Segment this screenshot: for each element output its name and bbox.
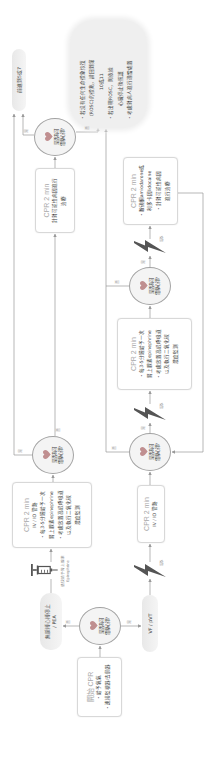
rosc-note-line: 心臟停止後照護	[116, 26, 125, 120]
shock-label: 電擊	[160, 236, 164, 242]
cpr-box-line: 針對可逆性病因進行	[51, 178, 60, 223]
rosc-note-line: ・考慮對病人進行適當處置	[125, 26, 134, 120]
rosc-note: ・若沒有任何生命徵象恢復 (ROSC)的徵兆，請回到第 10或11 ・若出現RO…	[70, 20, 147, 128]
branch-label-yes: 是	[142, 426, 146, 430]
start-title: 開始 CPR	[86, 672, 95, 703]
cpr-box-line: 治療	[60, 196, 69, 206]
cpr-box-line: ・每3-5分鐘給予一次	[39, 491, 48, 539]
cpr-box-line: 濃度監測	[74, 505, 83, 525]
heart-icon	[45, 133, 53, 142]
cpr-box-line: 利多卡因lidocaine	[146, 171, 155, 212]
shock-label: 電擊	[160, 560, 164, 566]
rosc-note-line: 10或11	[97, 26, 106, 120]
rhythm-vf-label: VF / pVT	[147, 614, 154, 634]
branch-label-no: 否	[116, 280, 120, 284]
start-item: ・給予氧氣	[95, 675, 104, 700]
branch-label-yes: 是	[25, 129, 29, 133]
decision-text: 電擊心律?	[105, 617, 111, 635]
cpr-box-amiodarone: CPR 2 min ・胺碘酮amiodarone或 利多卡因lidocaine …	[123, 157, 178, 225]
cpr-box-line: 以及執行二氧化碳	[163, 334, 172, 374]
cpr-box-line: ・考慮放置高級呼吸道	[57, 490, 66, 540]
cpr-box-title: CPR 2 min	[22, 498, 31, 532]
heart-icon	[90, 622, 98, 631]
start-cpr-box: 開始 CPR ・給予氧氣 ・連接監視器/去顫器	[77, 657, 122, 717]
cpr-box-title: CPR 2 min	[142, 497, 151, 531]
connector-asystole-check-yes	[14, 114, 32, 455]
rosc-note-line: ・若沒有任何生命徵象恢復	[78, 26, 87, 120]
branch-label-yes: 是	[128, 620, 132, 624]
rhythm-asystole-label: 無脈搏心搏停止	[44, 604, 51, 639]
goto-step-node: 前進到5或7	[12, 49, 26, 111]
goto-step-label: 前進到5或7	[16, 67, 23, 93]
cpr-box-line: ・胺碘酮amiodarone或	[138, 165, 147, 217]
branch-label-no: 否	[67, 620, 71, 624]
cpr-box-title: CPR 2 min	[129, 174, 138, 208]
cpr-box-title: CPR 2 min	[42, 184, 51, 218]
cpr-box-line: 以及執行二氧化碳	[65, 495, 74, 535]
epinephrine-note: 儘快給予腎上腺素 Epinephrine	[61, 549, 71, 593]
cpr-box-reversible-causes: CPR 2 min 針對可逆性病因進行 治療	[35, 168, 75, 233]
epinephrine-note-drug: Epinephrine	[66, 549, 71, 593]
syringe-icon	[31, 563, 58, 577]
cpr-box-line: IV / IO 管路	[151, 501, 160, 526]
cpr-box-line: IV / IO 管路	[31, 502, 40, 527]
decision-shockable-reversible: 是否為可 電擊心律?	[34, 118, 76, 156]
cpr-box-asystole-epinephrine: CPR 2 min IV / IO 管路 ・每3-5分鐘給予一次 腎上腺素epi…	[12, 482, 92, 548]
decision-text: 電擊心律?	[155, 443, 161, 461]
cpr-box-title: CPR 2 min	[129, 337, 138, 371]
heart-icon	[140, 448, 148, 457]
rosc-note-line: (ROSC)的徵兆，請回到第	[87, 26, 96, 120]
cpr-box-line: 腎上腺素epinephrine	[48, 491, 57, 539]
rhythm-pea-label: / PEA	[51, 615, 58, 627]
cpr-box-line: 進行治療	[164, 181, 173, 201]
cpr-box-line: ・考慮放置高級呼吸道	[155, 329, 164, 379]
branch-label-yes: 是	[19, 449, 23, 453]
rhythm-vf-pvt: VF / pVT	[142, 595, 158, 652]
cpr-box-vf-epinephrine: CPR 2 min ・每3-5分鐘給予一次 腎上腺素epinephrine ・考…	[117, 318, 192, 390]
decision-text: 電擊心律?	[60, 128, 66, 146]
rhythm-asystole-pea: 無脈搏心搏停止 / PEA	[40, 593, 62, 650]
decision-text: 電擊心律?	[155, 277, 161, 295]
cpr-box-line: 腎上腺素epinephrine	[146, 330, 155, 378]
cpr-box-line: 濃度監測	[172, 344, 181, 364]
cpr-algorithm-flowchart: 開始 CPR ・給予氧氣 ・連接監視器/去顫器 是否為可 電擊心律? 是否為可 …	[0, 0, 211, 759]
cpr-box-line: ・每3-5分鐘給予一次	[138, 330, 147, 378]
start-item: ・連接監視器/去顫器	[104, 664, 113, 711]
branch-label-no: 否	[113, 446, 117, 450]
decision-text: 電擊心律?	[58, 446, 64, 464]
decision-shockable-asystole: 是否為可 電擊心律?	[32, 436, 74, 474]
heart-icon	[43, 451, 51, 460]
cpr-box-iv-io: CPR 2 min IV / IO 管路	[137, 485, 165, 543]
rosc-note-line: ・若出現ROSC，則依據	[106, 26, 115, 120]
decision-shockable-vf-2: 是否為可 電擊心律?	[129, 267, 171, 305]
cpr-box-line: ・針對可逆性病因	[155, 171, 164, 211]
branch-label-no: 否	[57, 428, 61, 432]
branch-label-no: 否	[86, 126, 90, 130]
branch-label-yes: 是	[142, 260, 146, 264]
heart-icon	[140, 282, 148, 291]
decision-shockable-start: 是否為可 電擊心律?	[79, 607, 121, 645]
decision-shockable-vf-1: 是否為可 電擊心律?	[129, 433, 171, 471]
shock-label: 電擊	[160, 403, 164, 409]
